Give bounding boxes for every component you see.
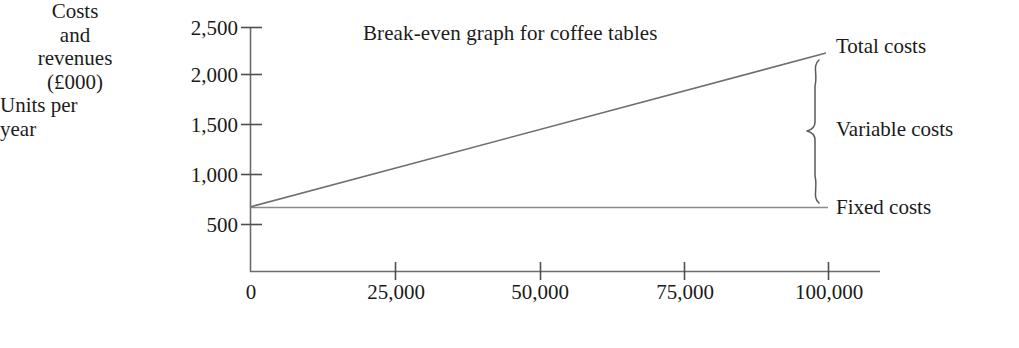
variable-costs-brace-icon — [807, 60, 819, 203]
breakeven-chart-figure: Break-even graph for coffee tables Costs… — [0, 0, 1019, 348]
series-label-total-costs: Total costs — [836, 34, 926, 59]
series-line-total-costs — [250, 53, 826, 207]
annotation-label-variable-costs: Variable costs — [836, 117, 953, 142]
series-label-fixed-costs: Fixed costs — [836, 195, 931, 220]
